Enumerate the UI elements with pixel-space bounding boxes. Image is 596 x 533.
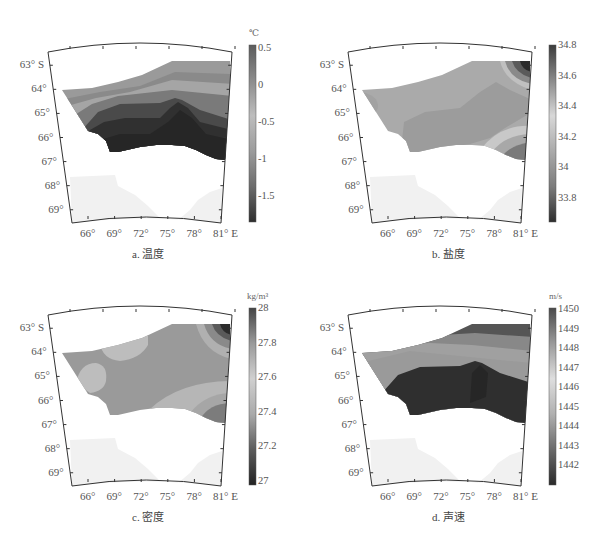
lon-label: 66° [380,228,395,239]
colorbar-unit: ℃ [249,28,259,38]
lon-label: 69° [107,491,122,502]
colorbar-unit: m/s [549,291,562,301]
lat-label: 68° [45,443,60,454]
contour-fill [340,303,560,463]
lat-label: 69° [348,467,363,478]
colorbar-tick-label: 0.5 [258,43,271,54]
lat-label: 68° [345,443,360,454]
lon-label: 75° [460,491,475,502]
colorbar-tick-label: 28 [258,303,269,314]
lat-label: 63° S [20,322,44,333]
lon-label: 75° [460,228,475,239]
lon-label: 81° E [213,491,238,502]
lat-label: 65° [35,370,50,381]
colorbar-tick-label: 1444 [558,421,579,432]
lat-label: 69° [48,204,63,215]
colorbar-tick-label: 1449 [558,324,579,335]
colorbar-tick-label: 27.8 [258,338,276,349]
lon-label: 78° [486,228,501,239]
contour-fill [340,40,560,200]
lat-label: 69° [48,467,63,478]
lat-label: 66° [338,395,353,406]
colorbar-tick-label: 1448 [558,343,579,354]
lat-label: 66° [38,395,53,406]
antarctic-coast [70,175,222,223]
colorbar-tick-label: 34 [558,162,569,173]
colorbar-tick-label: 1442 [558,460,579,471]
colorbar-unit: kg/m³ [247,291,268,301]
lon-label: 66° [80,228,95,239]
map-panel-b: b. 盐度 63° S64°65°66°67°68°69°66°69°72°75… [300,0,596,266]
antarctic-coast [370,175,522,223]
lat-label: 64° [31,346,46,357]
colorbar-tick-label: 1450 [558,304,579,315]
contour-fill [40,40,260,200]
panel-caption: c. 密度 [132,508,164,524]
lon-label: 78° [186,491,201,502]
lat-label: 63° S [320,322,344,333]
lon-label: 66° [80,491,95,502]
lat-label: 65° [335,370,350,381]
colorbar-tick-label: 1443 [558,441,579,452]
colorbar [549,308,556,485]
colorbar-tick-label: -1 [258,154,267,165]
lat-label: 67° [41,419,56,430]
lat-label: 66° [338,132,353,143]
lat-label: 68° [345,180,360,191]
lon-label: 72° [133,491,148,502]
lon-label: 78° [486,491,501,502]
lon-label: 81° E [513,491,538,502]
colorbar-tick-label: 0 [258,80,263,91]
map-panel-d: m/s d. 声速 63° S64°65°66°67°68°69°66°69°7… [300,263,596,529]
contour-fill [40,303,260,463]
lat-label: 63° S [320,59,344,70]
panel-caption: d. 声速 [432,508,465,524]
lon-label: 69° [407,491,422,502]
lat-label: 63° S [20,59,44,70]
lat-label: 66° [38,132,53,143]
lat-label: 67° [41,156,56,167]
colorbar-tick-label: 27.4 [258,407,276,418]
panel-caption: a. 温度 [132,245,164,261]
map-panel-c: kg/m³ c. 密度 63° S64°65°66°67°68°69°66°69… [0,263,298,529]
colorbar-tick-label: 27.2 [258,441,276,452]
antarctic-coast [70,438,222,486]
colorbar-tick-label: 27 [258,476,269,487]
lon-label: 81° E [213,228,238,239]
lon-label: 81° E [513,228,538,239]
lon-label: 69° [407,228,422,239]
lat-label: 69° [348,204,363,215]
lon-label: 75° [160,228,175,239]
lon-label: 72° [433,228,448,239]
colorbar-tick-label: 27.6 [258,372,276,383]
lat-label: 64° [331,346,346,357]
lon-label: 69° [107,228,122,239]
panel-caption: b. 盐度 [432,245,465,261]
colorbar-tick-label: 33.8 [558,193,576,204]
lat-label: 67° [341,156,356,167]
lat-label: 64° [31,83,46,94]
colorbar-tick-label: 1447 [558,363,579,374]
map-panel-a: ℃ a. 温度 63° S64°65°66°67°68°69°66°69°72°… [0,0,298,266]
colorbar-tick-label: 34.6 [558,71,576,82]
colorbar-tick-label: 34.2 [558,132,576,143]
colorbar-tick-label: -1.5 [258,191,275,202]
lon-label: 72° [433,491,448,502]
antarctic-coast [370,438,522,486]
colorbar [249,45,256,222]
colorbar-tick-label: 1446 [558,382,579,393]
lat-label: 65° [335,107,350,118]
colorbar [249,308,256,485]
colorbar-tick-label: 34.8 [558,40,576,51]
lon-label: 75° [160,491,175,502]
lon-label: 72° [133,228,148,239]
colorbar [549,45,556,222]
lat-label: 68° [45,180,60,191]
colorbar-tick-label: 34.4 [558,101,576,112]
lon-label: 78° [186,228,201,239]
lat-label: 67° [341,419,356,430]
lon-label: 66° [380,491,395,502]
lat-label: 65° [35,107,50,118]
lat-label: 64° [331,83,346,94]
colorbar-tick-label: -0.5 [258,117,275,128]
